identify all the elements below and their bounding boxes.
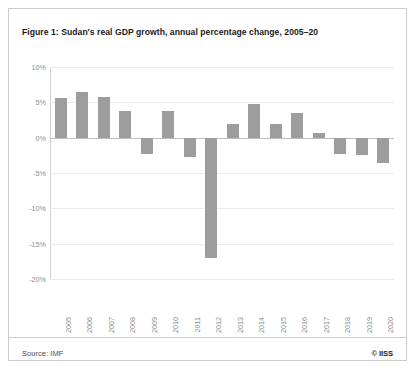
x-axis-tick-label: 2005 bbox=[64, 317, 73, 333]
gridline bbox=[50, 67, 394, 68]
bar-2015 bbox=[270, 124, 282, 137]
figure-panel: Figure 1: Sudan's real GDP growth, annua… bbox=[8, 8, 407, 361]
x-axis-tick-label: 2009 bbox=[150, 317, 159, 333]
x-axis-tick-label: 2020 bbox=[386, 317, 395, 333]
page-title: Figure 1: Sudan's real GDP growth, annua… bbox=[22, 27, 392, 38]
bar-2006 bbox=[76, 92, 88, 138]
bar-2016 bbox=[291, 113, 303, 138]
x-axis-tick-label: 2006 bbox=[85, 317, 94, 333]
y-axis-tick-label: -5% bbox=[12, 169, 46, 178]
bar-2008 bbox=[119, 111, 131, 138]
y-axis-tick-label: 5% bbox=[12, 98, 46, 107]
source-note: Source: IMF bbox=[22, 349, 63, 358]
x-axis-tick-label: 2019 bbox=[365, 317, 374, 333]
x-axis-tick-labels: 2005200620072008200920102011201220132014… bbox=[50, 283, 394, 323]
x-axis-tick-label: 2008 bbox=[128, 317, 137, 333]
y-axis-tick-label: 10% bbox=[12, 63, 46, 72]
bar-2013 bbox=[227, 124, 239, 138]
bar-2011 bbox=[184, 138, 196, 158]
bar-2007 bbox=[98, 97, 110, 137]
bar-2009 bbox=[141, 138, 153, 154]
y-axis-tick-label: -20% bbox=[12, 275, 46, 284]
bar-2020 bbox=[377, 138, 389, 163]
x-axis-tick-label: 2014 bbox=[257, 317, 266, 333]
x-axis-tick-label: 2010 bbox=[171, 317, 180, 333]
x-axis-tick-label: 2012 bbox=[214, 317, 223, 333]
bar-2010 bbox=[162, 111, 174, 138]
bar-2005 bbox=[55, 98, 67, 138]
bar-2018 bbox=[334, 138, 346, 154]
iiss-copyright-logo: © IISS bbox=[372, 349, 393, 358]
footer-divider bbox=[9, 337, 407, 338]
x-axis-tick-label: 2018 bbox=[343, 317, 352, 333]
x-axis-tick-label: 2017 bbox=[322, 317, 331, 333]
gridline bbox=[50, 173, 394, 174]
gridline bbox=[50, 244, 394, 245]
bar-2019 bbox=[356, 138, 368, 156]
gridline bbox=[50, 279, 394, 280]
gridline bbox=[50, 208, 394, 209]
x-axis-tick-label: 2016 bbox=[300, 317, 309, 333]
x-axis-tick-label: 2011 bbox=[193, 317, 202, 332]
chart-plot-area bbox=[50, 67, 394, 279]
x-axis-tick-label: 2007 bbox=[107, 317, 116, 333]
bar-2017 bbox=[313, 133, 325, 138]
y-axis-tick-label: -10% bbox=[12, 204, 46, 213]
x-axis-tick-label: 2013 bbox=[236, 317, 245, 333]
x-axis-tick-label: 2015 bbox=[279, 317, 288, 333]
y-axis-tick-labels: 10%5%0%-5%-10%-15%-20% bbox=[9, 67, 46, 280]
y-axis-tick-label: 0% bbox=[12, 133, 46, 142]
bar-2012 bbox=[205, 138, 217, 258]
bar-2014 bbox=[248, 104, 260, 137]
y-axis-tick-label: -15% bbox=[12, 239, 46, 248]
